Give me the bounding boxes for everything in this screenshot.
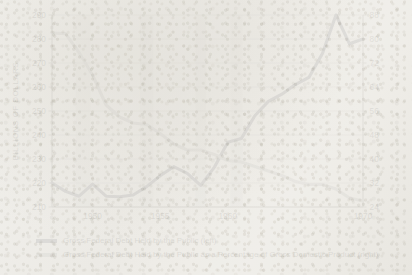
x-tick-label: 1960 [218, 212, 237, 221]
legend-swatch [36, 239, 57, 243]
right-tick-label: 80 [370, 35, 380, 44]
chart-container: 210220230240250260270280290 243240485664… [0, 0, 412, 275]
legend-label: Gross Federal Debt Held by the Public as… [63, 250, 378, 259]
legend-swatch [36, 253, 57, 257]
right-tick-label: 72 [370, 59, 380, 68]
x-tick-label: 1955 [151, 212, 170, 221]
left-tick-label: 290 [32, 11, 46, 20]
left-tick-label: 280 [32, 35, 46, 44]
right-tick-label: 88 [370, 11, 380, 20]
left-tick-label: 260 [32, 83, 46, 92]
left-tick-label: 210 [32, 203, 46, 212]
left-axis-title-group: BILLIONS OF DOLLARS [11, 62, 20, 161]
right-tick-label: 56 [370, 107, 380, 116]
right-axis-tick-labels: 243240485664728088 [370, 11, 380, 212]
left-tick-label: 230 [32, 155, 46, 164]
left-tick-label: 220 [32, 179, 46, 188]
x-axis-tick-labels: 1950195519601970 [83, 212, 372, 221]
series-line-debt-level [52, 15, 363, 197]
x-tick-label: 1950 [83, 212, 102, 221]
chart-legend: Gross Federal Debt Held by the Public (l… [36, 236, 406, 264]
right-tick-label: 48 [370, 131, 380, 140]
right-tick-label: 64 [370, 83, 380, 92]
legend-item: Gross Federal Debt Held by the Public as… [36, 250, 406, 259]
left-tick-label: 240 [32, 131, 46, 140]
series-lines-group [52, 15, 363, 201]
left-tick-label: 250 [32, 107, 46, 116]
left-tick-label: 270 [32, 59, 46, 68]
left-axis-title: BILLIONS OF DOLLARS [11, 62, 20, 161]
legend-label: Gross Federal Debt Held by the Public (l… [63, 236, 217, 245]
right-tick-label: 32 [370, 179, 380, 188]
x-tick-label: 1970 [354, 212, 373, 221]
dual-axis-line-chart: 210220230240250260270280290 243240485664… [0, 0, 412, 275]
legend-item: Gross Federal Debt Held by the Public (l… [36, 236, 406, 245]
right-tick-label: 24 [370, 203, 380, 212]
right-tick-label: 40 [370, 155, 380, 164]
left-axis-tick-labels: 210220230240250260270280290 [32, 11, 46, 212]
